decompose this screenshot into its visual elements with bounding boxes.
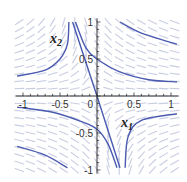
vector-arrow [137, 88, 146, 89]
vector-arrow [60, 131, 68, 134]
vector-arrow [15, 81, 24, 82]
vector-arrow [83, 145, 89, 151]
vector-arrow [159, 73, 168, 74]
vector-arrow [159, 103, 168, 104]
vector-arrow [26, 125, 35, 127]
vector-arrow [49, 49, 56, 54]
trajectory-trajectory-top-right-upper [120, 22, 177, 44]
vector-arrow [148, 50, 157, 53]
vector-arrow [159, 28, 167, 31]
vector-arrow [170, 139, 179, 142]
vector-arrow [115, 57, 123, 61]
vector-arrow [149, 145, 157, 150]
vector-arrow [27, 27, 34, 32]
y-tick-label: -1 [84, 165, 93, 176]
vector-arrow [38, 26, 45, 32]
vector-arrow [148, 58, 157, 60]
vector-arrow [159, 50, 168, 52]
vector-arrow [105, 19, 111, 26]
vector-arrow [83, 152, 89, 158]
vector-arrow [170, 66, 179, 68]
vector-arrow [126, 88, 135, 89]
y-tick-label: -0.5 [76, 128, 94, 139]
vector-arrow [26, 154, 35, 157]
vector-arrow [170, 58, 179, 60]
vector-arrow [38, 19, 44, 26]
vector-arrow [71, 160, 78, 166]
vector-arrow [137, 20, 145, 24]
vector-arrow [37, 88, 46, 89]
origin-label: 0 [87, 99, 93, 110]
vector-arrow [27, 19, 34, 25]
vector-arrow [148, 88, 157, 89]
vector-arrow [15, 118, 24, 119]
vector-arrow [170, 110, 179, 111]
vector-arrow [160, 146, 168, 150]
vector-arrow [37, 65, 46, 68]
vector-arrow [59, 80, 68, 82]
vector-arrow [26, 110, 35, 111]
vector-arrow [15, 50, 23, 53]
vector-arrow [49, 153, 57, 157]
vector-arrow [148, 124, 157, 127]
vector-arrow [60, 146, 68, 150]
vector-arrow [160, 160, 167, 165]
x-tick-label: -1 [19, 99, 28, 110]
vector-arrow [138, 152, 144, 159]
vector-arrow [105, 34, 111, 40]
vector-arrow [170, 125, 179, 127]
vector-arrow [26, 81, 35, 82]
vector-arrow [60, 168, 67, 173]
vector-arrow [105, 56, 112, 62]
vector-arrow [38, 50, 46, 54]
vector-arrow [159, 66, 168, 68]
vector-arrow [104, 87, 113, 89]
vector-arrow [105, 49, 112, 55]
vector-arrow [170, 35, 179, 38]
vector-arrow [26, 50, 34, 53]
vector-arrow [49, 57, 57, 61]
vector-arrow [128, 144, 133, 151]
vector-arrow [160, 153, 168, 158]
vector-arrow [126, 57, 134, 60]
vector-arrow [148, 43, 156, 46]
vector-arrow [104, 71, 112, 76]
phase-portrait-chart: -1-0.50.5110.5-0.5-10 x2 x1 [0, 0, 187, 182]
vector-arrow [139, 159, 144, 166]
vector-arrow [104, 79, 112, 83]
vector-arrow [159, 20, 167, 23]
vector-arrow [148, 103, 157, 104]
vector-arrow [15, 27, 23, 32]
vector-arrow [37, 146, 45, 149]
vector-arrow [15, 42, 23, 45]
vector-arrow [15, 154, 24, 157]
vector-arrow [159, 110, 168, 111]
vector-arrow [137, 131, 145, 135]
vector-arrow [26, 139, 35, 141]
vector-arrow [105, 107, 111, 114]
axes [16, 18, 179, 173]
vector-arrow [170, 118, 179, 119]
vector-arrow [48, 132, 57, 135]
x-tick-label: -0.5 [51, 99, 69, 110]
vector-arrow [15, 168, 23, 171]
vector-arrow [38, 42, 46, 47]
vector-arrow [137, 42, 145, 46]
vector-arrow [15, 58, 24, 60]
vector-arrow [159, 132, 168, 135]
vector-arrow [62, 18, 65, 27]
vector-arrow [15, 65, 24, 67]
vector-arrow [137, 65, 146, 67]
vector-arrow [15, 73, 24, 74]
vector-arrow [37, 103, 46, 104]
vector-arrow [82, 87, 90, 90]
vector-arrow [148, 110, 157, 111]
vector-arrow [159, 139, 167, 142]
vector-arrow [26, 88, 35, 89]
vector-arrow [49, 168, 57, 172]
trajectory-trajectory-bottom-left [17, 146, 67, 167]
vector-arrow [48, 124, 57, 126]
vector-arrow [71, 153, 78, 158]
vector-arrow [48, 117, 57, 119]
x-tick-label: 0.5 [127, 99, 141, 110]
